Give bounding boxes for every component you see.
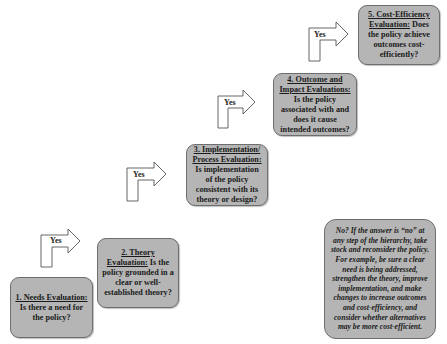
step-5-cost-efficiency-evaluation: 5. Cost-Efficiency Evaluation: Does the …	[358, 5, 440, 65]
step-3-title: 3. Implementation/ Process Evaluation:	[191, 145, 263, 165]
yes-arrow-1: Yes	[40, 228, 82, 268]
step-3-implementation-evaluation: 3. Implementation/ Process Evaluation: I…	[186, 144, 268, 206]
bent-arrow-icon	[308, 21, 350, 62]
yes-label-3: Yes	[224, 98, 236, 107]
step-4-outcome-evaluation: 4. Outcome and Impact Evaluations: Is th…	[273, 73, 357, 136]
yes-label-1: Yes	[50, 236, 62, 245]
yes-arrow-2: Yes	[126, 161, 168, 202]
step-4-title: 4. Outcome and Impact Evaluations:	[278, 75, 352, 95]
yes-arrow-4: Yes	[308, 21, 350, 62]
step-2-text: 2. Theory Evaluation: Is the policy grou…	[102, 248, 174, 298]
step-5-text: 5. Cost-Efficiency Evaluation: Does the …	[363, 10, 435, 60]
reconsider-note: No? If the answer is “no” at any step of…	[324, 219, 436, 339]
reconsider-note-text: No? If the answer is “no” at any step of…	[330, 226, 430, 332]
step-1-needs-evaluation: 1. Needs Evaluation: Is there a need for…	[10, 277, 93, 338]
step-2-theory-evaluation: 2. Theory Evaluation: Is the policy grou…	[97, 238, 179, 308]
step-2-title: 2. Theory Evaluation:	[107, 248, 155, 267]
bent-arrow-icon	[126, 161, 168, 202]
bent-arrow-icon	[217, 89, 257, 129]
yes-arrow-3: Yes	[217, 89, 257, 129]
step-3-body: Is implementation of the policy consiste…	[191, 165, 263, 205]
step-1-title: 1. Needs Evaluation:	[15, 293, 87, 303]
yes-label-2: Yes	[133, 170, 145, 179]
bent-arrow-icon	[40, 228, 82, 268]
step-4-body: Is the policy associated with and does i…	[278, 95, 352, 135]
step-1-body: Is there a need for the policy?	[15, 303, 88, 323]
yes-label-4: Yes	[314, 30, 326, 39]
